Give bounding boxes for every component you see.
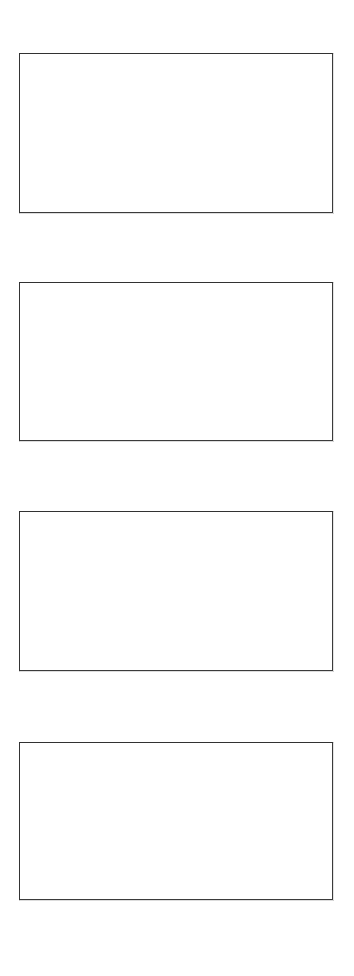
panel-1-content <box>20 54 332 212</box>
page-canvas <box>0 0 354 976</box>
panel-4-content <box>20 743 332 899</box>
panel-3[interactable] <box>19 511 333 671</box>
panel-3-content <box>20 512 332 670</box>
panel-2-content <box>20 283 332 440</box>
panel-1[interactable] <box>19 53 333 213</box>
panel-4[interactable] <box>19 742 333 900</box>
panel-2[interactable] <box>19 282 333 441</box>
